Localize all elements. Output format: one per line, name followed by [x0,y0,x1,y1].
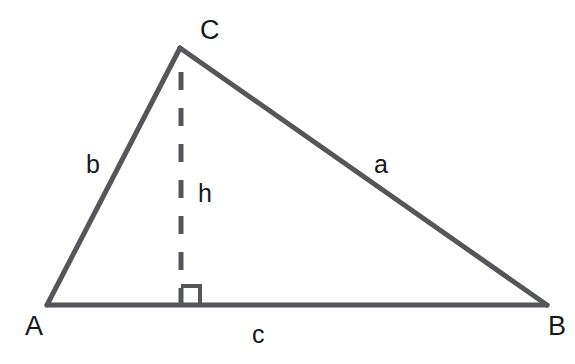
side-label-c: c [252,322,265,347]
side-label-a: a [374,152,388,177]
vertex-label-c: C [200,17,220,44]
triangle-side-b-line [47,48,180,305]
vertex-label-b: B [548,313,566,340]
right-angle-marker-icon [181,286,200,305]
triangle-side-a-line [180,48,547,305]
triangle-svg-canvas [0,0,575,364]
vertex-label-a: A [25,313,43,340]
altitude-label-h: h [198,181,212,206]
side-label-b: b [86,152,100,177]
triangle-diagram: A B C a b c h [0,0,575,364]
